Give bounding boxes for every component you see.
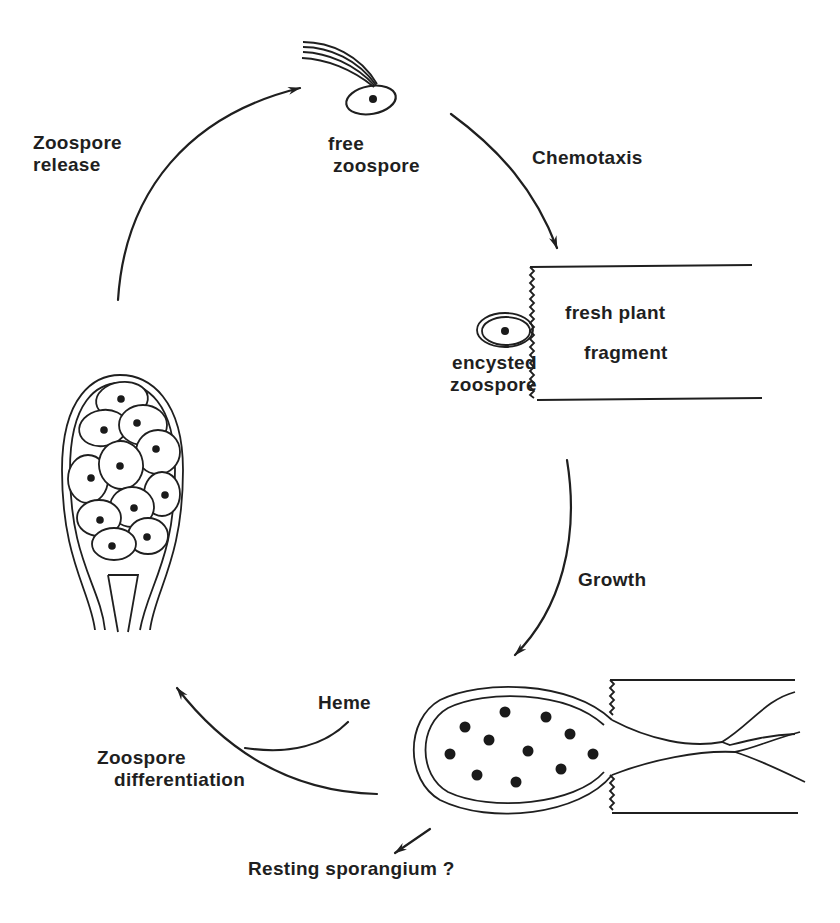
growth-label: Growth xyxy=(578,569,646,591)
zoospore-release-arrow xyxy=(118,88,300,300)
label-line: encysted xyxy=(410,352,537,374)
free-zoospore-label: free zoospore xyxy=(328,133,420,177)
encysted-zoospore-label: encysted zoospore xyxy=(410,352,537,396)
label-line: Zoospore xyxy=(33,132,122,154)
plant-fragment-label: fresh plant fragment xyxy=(565,293,668,373)
label-line: Chemotaxis xyxy=(532,147,643,169)
chemotaxis-arrow xyxy=(451,114,557,248)
label-line: Heme xyxy=(318,692,371,714)
free-zoospore-icon xyxy=(302,42,398,118)
label-line: release xyxy=(33,154,122,176)
resting-sporangium-label: Resting sporangium ? xyxy=(248,858,455,880)
label-line: zoospore xyxy=(450,374,537,396)
encysted-zoospore-icon xyxy=(477,313,533,347)
label-line: Resting sporangium ? xyxy=(248,858,455,880)
label-line: Zoospore xyxy=(97,747,245,769)
resting-sporangium-arrow xyxy=(395,829,430,853)
heme-curve xyxy=(245,722,348,750)
label-line: zoospore xyxy=(333,155,420,177)
label-line: differentiation xyxy=(114,769,245,791)
zoospore-differentiation-label: Zoospore differentiation xyxy=(97,747,245,791)
label-line: Growth xyxy=(578,569,646,591)
zoospore-release-label: Zoospore release xyxy=(33,132,122,176)
zoosporangium-icon xyxy=(62,375,183,632)
mature-sporangium-icon xyxy=(414,680,805,814)
heme-label: Heme xyxy=(318,692,371,714)
growth-arrow xyxy=(515,460,571,655)
label-line: fragment xyxy=(584,333,668,373)
label-line: fresh plant xyxy=(565,293,668,333)
chemotaxis-label: Chemotaxis xyxy=(532,147,643,169)
label-line: free xyxy=(328,133,420,155)
life-cycle-diagram: Zoospore release free zoospore Chemotaxi… xyxy=(0,0,840,923)
